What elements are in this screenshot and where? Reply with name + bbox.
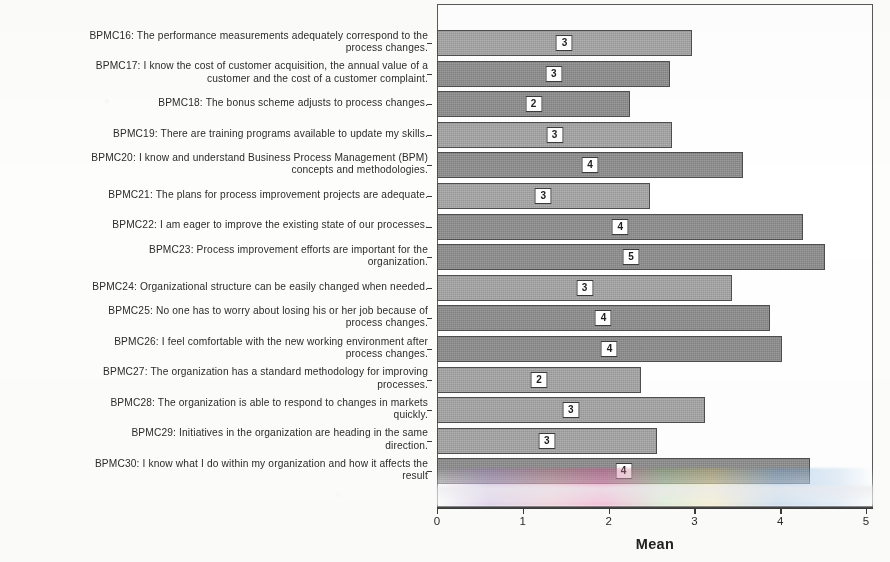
category-label: BPMC29: Initiatives in the organization … [4, 427, 428, 452]
category-tick-dash [427, 471, 432, 472]
bar-value-label: 4 [595, 310, 612, 326]
category-label: BPMC28: The organization is able to resp… [4, 397, 428, 422]
x-axis-line [437, 507, 873, 509]
x-axis-tick-label: 3 [691, 515, 697, 527]
x-axis-tick [694, 507, 695, 514]
x-axis-tick-label: 5 [863, 515, 869, 527]
x-axis-tick [866, 507, 867, 514]
category-label: BPMC23: Process improvement efforts are … [4, 244, 428, 269]
bar-value-label: 2 [531, 372, 548, 388]
x-axis-tick-label: 0 [434, 515, 440, 527]
category-label: BPMC22: I am eager to improve the existi… [4, 219, 428, 231]
category-tick-dash [427, 318, 432, 319]
category-label: BPMC24: Organizational structure can be … [4, 281, 428, 293]
bar-value-label: 4 [615, 463, 632, 479]
bar-value-label: 3 [562, 402, 579, 418]
category-label: BPMC17: I know the cost of customer acqu… [4, 60, 428, 85]
category-labels-column: BPMC16: The performance measurements ade… [0, 0, 432, 500]
category-label: BPMC19: There are training programs avai… [4, 128, 428, 140]
bar-value-label: 3 [546, 127, 563, 143]
bar-value-label: 4 [582, 157, 599, 173]
category-label: BPMC18: The bonus scheme adjusts to proc… [4, 97, 428, 109]
category-tick-dash [427, 104, 432, 105]
x-axis-tick-label: 2 [605, 515, 611, 527]
bar-value-label: 3 [545, 66, 562, 82]
category-tick-dash [427, 165, 432, 166]
x-axis-tick [609, 507, 610, 514]
category-label: BPMC27: The organization has a standard … [4, 366, 428, 391]
bar-value-label: 2 [525, 96, 542, 112]
category-tick-dash [427, 74, 432, 75]
bar-value-label: 3 [538, 433, 555, 449]
bars-layer: 332343453442334 [437, 4, 873, 507]
x-axis-tick [437, 507, 438, 514]
bar-value-label: 4 [612, 219, 629, 235]
x-axis-tick-label: 1 [520, 515, 526, 527]
bar-value-label: 3 [535, 188, 552, 204]
x-axis-tick [523, 507, 524, 514]
category-label: BPMC30: I know what I do within my organ… [4, 458, 428, 483]
bar-value-label: 5 [622, 249, 639, 265]
x-axis-tick-label: 4 [777, 515, 783, 527]
x-axis-title: Mean [437, 536, 873, 552]
bar-chart-figure: BPMC16: The performance measurements ade… [0, 0, 890, 562]
x-axis-tick [780, 507, 781, 514]
category-label: BPMC20: I know and understand Business P… [4, 152, 428, 177]
category-tick-dash [427, 441, 432, 442]
category-label: BPMC25: No one has to worry about losing… [4, 305, 428, 330]
category-tick-dash [427, 288, 432, 289]
category-tick-dash [427, 135, 432, 136]
bar-value-label: 3 [576, 280, 593, 296]
category-tick-dash [427, 196, 432, 197]
category-tick-dash [427, 349, 432, 350]
category-tick-dash [427, 257, 432, 258]
category-label: BPMC21: The plans for process improvemen… [4, 189, 428, 201]
category-tick-dash [427, 410, 432, 411]
category-tick-dash [427, 227, 432, 228]
category-tick-dash [427, 380, 432, 381]
category-label: BPMC16: The performance measurements ade… [4, 30, 428, 55]
bar-value-label: 3 [556, 35, 573, 51]
category-label: BPMC26: I feel comfortable with the new … [4, 336, 428, 361]
bar-value-label: 4 [601, 341, 618, 357]
category-tick-dash [427, 43, 432, 44]
